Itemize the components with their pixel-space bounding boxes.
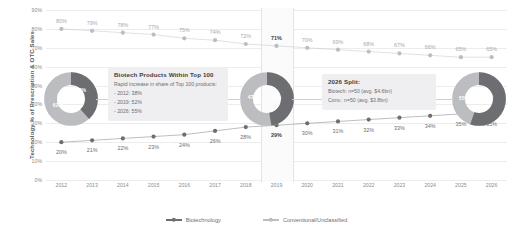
y-tick-90%: 90% — [16, 7, 42, 13]
point-biotechnology-2023 — [397, 116, 401, 120]
callout-left-lead: Rapid increase in share of Top 100 produ… — [114, 80, 222, 89]
x-tick-2012: 2012 — [56, 182, 68, 188]
y-tick-60%: 60% — [16, 64, 42, 70]
connector-right — [292, 99, 322, 100]
data-label-bio-2018: 28% — [240, 134, 251, 140]
donut-2012-biotech-label: 38% — [76, 87, 86, 93]
data-label-conv-2013: 79% — [87, 20, 98, 26]
data-label-bio-2015: 23% — [148, 144, 159, 150]
point-biotechnology-2020 — [305, 121, 309, 125]
legend: Biotechnology Conventional/Unclassified — [0, 217, 513, 223]
point-conventionalunclassified-2014 — [121, 31, 125, 35]
legend-item-conventional[interactable]: Conventional/Unclassified — [263, 217, 347, 223]
line-conventional — [61, 29, 491, 57]
y-tick-50%: 50% — [16, 83, 42, 89]
donut-2019-biotech-label: 47% — [248, 94, 258, 100]
x-tick-2017: 2017 — [209, 182, 221, 188]
callout-left-line3: - 2026: 55% — [114, 107, 222, 116]
data-label-conv-2021: 69% — [333, 39, 344, 45]
donut-chart-2012: 38% 62% — [44, 72, 98, 126]
y-tick-30%: 30% — [16, 120, 42, 126]
x-tick-2018: 2018 — [240, 182, 252, 188]
y-tick-40%: 40% — [16, 101, 42, 107]
donut-2012-svg — [44, 72, 98, 126]
callout-left-title: Biotech Products Within Top 100 — [114, 71, 222, 78]
data-label-conv-2026: 65% — [486, 46, 497, 52]
data-label-conv-2014: 78% — [117, 22, 128, 28]
x-tick-2025: 2025 — [455, 182, 467, 188]
donut-2012-conventional-label: 62% — [53, 102, 63, 108]
x-tick-2015: 2015 — [148, 182, 160, 188]
point-biotechnology-2024 — [428, 114, 432, 118]
donut-2026-biotech-label: 55% — [459, 95, 469, 101]
x-tick-2021: 2021 — [332, 182, 344, 188]
y-tick-0%: 0% — [16, 177, 42, 183]
point-biotechnology-2021 — [336, 119, 340, 123]
data-label-conv-2012: 80% — [56, 18, 67, 24]
data-label-bio-2024: 34% — [425, 123, 436, 129]
connector-left-to-donut2019 — [226, 99, 242, 100]
x-tick-2022: 2022 — [363, 182, 375, 188]
data-label-bio-2022: 32% — [363, 127, 374, 133]
point-conventionalunclassified-2019 — [274, 44, 278, 48]
legend-label-biotechnology: Biotechnology — [186, 217, 221, 223]
x-tick-2026: 2026 — [486, 182, 498, 188]
x-tick-2016: 2016 — [179, 182, 191, 188]
point-biotechnology-2014 — [121, 136, 125, 140]
callout-right-line1: Biotech: n=50 (avg. $4.6bn) — [328, 87, 430, 96]
data-label-bio-2021: 31% — [333, 128, 344, 134]
legend-swatch-biotechnology — [166, 219, 182, 221]
points-conventional — [59, 27, 493, 60]
chart-container: Technology % of Prescription & OTC Sales… — [0, 0, 513, 228]
point-conventionalunclassified-2020 — [305, 46, 309, 50]
data-label-conv-2023: 67% — [394, 42, 405, 48]
point-conventionalunclassified-2013 — [90, 29, 94, 33]
data-label-conv-2019: 71% — [271, 35, 282, 41]
y-tick-20%: 20% — [16, 139, 42, 145]
callout-right-title: 2026 Split: — [328, 78, 430, 85]
callout-biotech-top100: Biotech Products Within Top 100 Rapid in… — [108, 67, 228, 121]
callout-right-line2: Conv.: n=50 (avg. $3.8bn) — [328, 96, 430, 105]
point-conventionalunclassified-2021 — [336, 48, 340, 52]
y-tick-10%: 10% — [16, 158, 42, 164]
data-label-bio-2020: 30% — [302, 130, 313, 136]
x-tick-2020: 2020 — [301, 182, 313, 188]
data-label-conv-2022: 68% — [363, 41, 374, 47]
donut-chart-2019: 47% 53% — [240, 72, 294, 126]
connector-right-to-donut2026 — [436, 99, 454, 100]
legend-label-conventional: Conventional/Unclassified — [283, 217, 347, 223]
point-conventionalunclassified-2017 — [213, 38, 217, 42]
y-tick-70%: 70% — [16, 45, 42, 51]
data-label-conv-2016: 75% — [179, 27, 190, 33]
data-label-conv-2020: 70% — [302, 37, 313, 43]
point-biotechnology-2017 — [213, 129, 217, 133]
x-tick-2013: 2013 — [86, 182, 98, 188]
data-label-conv-2018: 72% — [240, 33, 251, 39]
point-biotechnology-2012 — [59, 140, 63, 144]
x-tick-2024: 2024 — [424, 182, 436, 188]
x-tick-2019: 2019 — [271, 182, 283, 188]
point-biotechnology-2016 — [182, 133, 186, 137]
donut-chart-2026: 55% 45% — [452, 72, 506, 126]
data-label-bio-2017: 26% — [210, 138, 221, 144]
legend-item-biotechnology[interactable]: Biotechnology — [166, 217, 221, 223]
point-biotechnology-2015 — [151, 134, 155, 138]
point-conventionalunclassified-2012 — [59, 27, 63, 31]
point-biotechnology-2022 — [367, 117, 371, 121]
x-tick-2023: 2023 — [394, 182, 406, 188]
legend-swatch-conventional — [263, 219, 279, 221]
point-conventionalunclassified-2022 — [367, 49, 371, 53]
data-label-bio-2019: 29% — [271, 132, 282, 138]
data-label-bio-2023: 33% — [394, 125, 405, 131]
y-tick-80%: 80% — [16, 26, 42, 32]
callout-2026-split: 2026 Split: Biotech: n=50 (avg. $4.6bn) … — [322, 74, 436, 110]
data-label-conv-2025: 65% — [455, 46, 466, 52]
callout-left-line2: - 2019: 52% — [114, 98, 222, 107]
data-label-bio-2012: 20% — [56, 149, 67, 155]
data-label-conv-2017: 74% — [210, 29, 221, 35]
x-tick-2014: 2014 — [117, 182, 129, 188]
callout-left-line1: - 2012: 38% — [114, 89, 222, 98]
donut-2019-conventional-label: 53% — [271, 94, 281, 100]
data-label-conv-2024: 66% — [425, 44, 436, 50]
point-conventionalunclassified-2016 — [182, 36, 186, 40]
